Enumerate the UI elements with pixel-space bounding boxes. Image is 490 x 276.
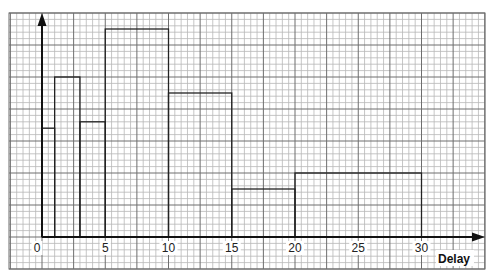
x-tick-label: 20 — [288, 241, 302, 255]
x-axis-title: Delay — [438, 252, 470, 266]
x-tick-label: 0 — [34, 241, 41, 255]
x-tick-label: 15 — [225, 241, 239, 255]
histogram-chart: 051015202530 Delay — [0, 0, 490, 276]
x-tick-label: 30 — [415, 241, 429, 255]
x-tick-label: 25 — [352, 241, 366, 255]
x-tick-label: 10 — [162, 241, 176, 255]
x-tick-label: 5 — [102, 241, 109, 255]
x-axis-title-group: Delay — [436, 250, 474, 266]
